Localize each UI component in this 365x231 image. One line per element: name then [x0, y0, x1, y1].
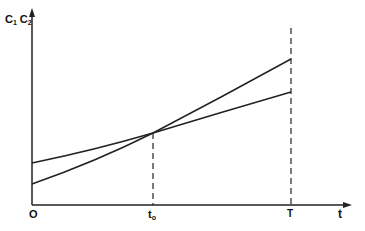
curve-c2	[32, 92, 291, 163]
y-axis-arrow-icon	[29, 8, 35, 17]
x-axis-arrow-icon	[343, 202, 352, 208]
T-label: T	[287, 208, 293, 219]
t0-label: to	[148, 208, 156, 221]
x-axis-label: t	[338, 207, 342, 221]
origin-label: O	[29, 208, 38, 220]
diagram-canvas: C1C2 O to T t	[0, 0, 365, 231]
curve-c1	[32, 59, 291, 184]
y-axis-label: C1C2	[5, 13, 32, 26]
